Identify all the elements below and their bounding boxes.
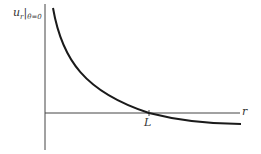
plot-canvas [0,0,261,154]
tick-label-L: L [144,116,151,129]
y-axis-label: ur|θ=0 [13,6,42,21]
curve-ur [53,8,241,124]
x-axis-label: r [242,105,247,118]
